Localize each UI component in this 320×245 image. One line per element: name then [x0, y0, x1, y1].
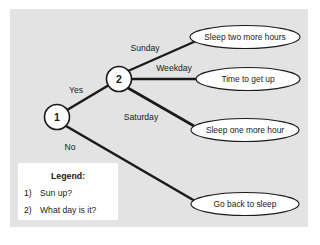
legend-item-1-text: Sun up? [40, 188, 72, 198]
leaf-label-4: Go back to sleep [214, 199, 277, 209]
leaf-label-1: Sleep two more hours [204, 32, 285, 42]
legend-box: Legend: 1) Sun up? 2) What day is it? [18, 163, 118, 220]
leaf-label-2: Time to get up [221, 74, 275, 84]
leaf-label-3: Sleep one more hour [206, 125, 284, 135]
decision-node-1-label: 1 [54, 111, 60, 123]
legend-item-2-text: What day is it? [40, 205, 97, 215]
edge-label-saturday: Saturday [124, 112, 159, 122]
legend-item-1-marker: 1) [24, 188, 32, 198]
decision-node-2-label: 2 [116, 73, 122, 85]
legend-item-2-marker: 2) [24, 205, 32, 215]
edge-label-weekday: Weekday [156, 63, 192, 73]
edge-label-sunday: Sunday [130, 43, 160, 53]
edge-label-yes: Yes [69, 85, 83, 95]
decision-tree-figure: Sleep two more hours Time to get up Slee… [0, 0, 320, 245]
legend-title: Legend: [51, 171, 85, 181]
decision-tree-canvas: Sleep two more hours Time to get up Slee… [0, 0, 320, 245]
edge-label-no: No [65, 142, 76, 152]
